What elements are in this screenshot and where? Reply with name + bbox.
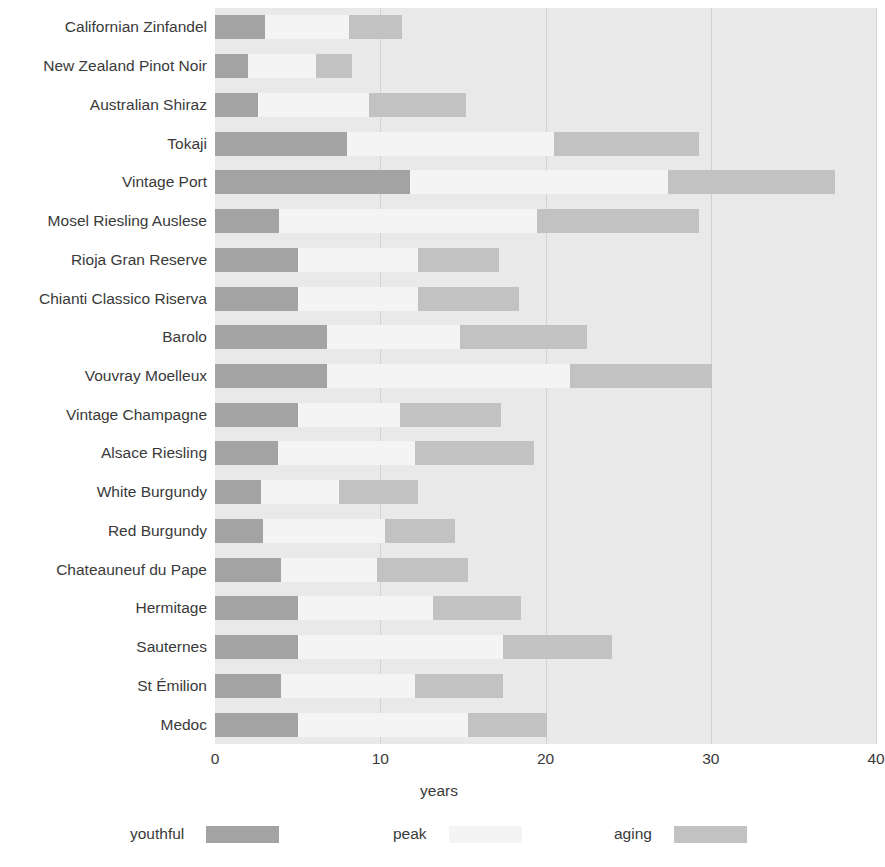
bar-segment-aging: [460, 325, 587, 349]
bar-segment-peak: [298, 596, 434, 620]
bar-segment-youthful: [215, 674, 281, 698]
x-axis-tick-label: 20: [537, 750, 554, 768]
bar-segment-aging: [349, 15, 402, 39]
bar-segment-aging: [369, 93, 466, 117]
bar-segment-youthful: [215, 170, 410, 194]
bar-segment-youthful: [215, 558, 281, 582]
bar-segment-youthful: [215, 635, 298, 659]
bar-segment-youthful: [215, 209, 279, 233]
bar-segment-youthful: [215, 596, 298, 620]
bar-segment-peak: [298, 403, 400, 427]
bar-segment-peak: [281, 674, 415, 698]
bar-row: [215, 674, 876, 698]
legend-item-youthful[interactable]: youthful: [130, 822, 279, 846]
y-axis-label: Vintage Port: [122, 174, 207, 190]
bar-row: [215, 325, 876, 349]
bar-segment-aging: [433, 596, 521, 620]
bar-segment-youthful: [215, 713, 298, 737]
y-axis-label: Australian Shiraz: [90, 97, 207, 113]
legend-swatch-aging: [674, 826, 747, 843]
x-axis-tick-label: 10: [372, 750, 389, 768]
bar-row: [215, 403, 876, 427]
y-axis-label: Medoc: [160, 717, 207, 733]
bar-row: [215, 558, 876, 582]
bar-segment-aging: [503, 635, 612, 659]
bar-segment-youthful: [215, 93, 258, 117]
plot-area: [215, 8, 876, 744]
legend-item-aging[interactable]: aging: [614, 822, 747, 846]
bar-segment-peak: [410, 170, 668, 194]
bar-segment-peak: [248, 54, 316, 78]
bar-segment-youthful: [215, 519, 263, 543]
bar-segment-peak: [327, 364, 570, 388]
bar-row: [215, 713, 876, 737]
legend-label: youthful: [130, 825, 184, 843]
bar-segment-youthful: [215, 325, 327, 349]
y-axis-label: Tokaji: [167, 136, 207, 152]
bar-row: [215, 364, 876, 388]
bar-segment-peak: [278, 441, 415, 465]
bar-segment-peak: [265, 15, 349, 39]
bar-segment-peak: [279, 209, 537, 233]
bar-segment-youthful: [215, 441, 278, 465]
bar-segment-aging: [385, 519, 454, 543]
legend-label: peak: [393, 825, 427, 843]
bar-row: [215, 209, 876, 233]
y-axis-label: St Émilion: [137, 678, 207, 694]
bar-segment-youthful: [215, 480, 261, 504]
bar-row: [215, 15, 876, 39]
bar-segment-aging: [668, 170, 835, 194]
bar-segment-aging: [537, 209, 699, 233]
bar-segment-peak: [281, 558, 377, 582]
legend-swatch-peak: [449, 826, 522, 843]
bar-row: [215, 635, 876, 659]
bar-segment-youthful: [215, 287, 298, 311]
bar-segment-peak: [298, 248, 419, 272]
bar-segment-peak: [261, 480, 339, 504]
bar-segment-peak: [298, 287, 419, 311]
y-axis-label: Vintage Champagne: [66, 407, 207, 423]
y-axis-label: Alsace Riesling: [101, 445, 207, 461]
y-axis-label: Chianti Classico Riserva: [39, 291, 207, 307]
bar-segment-youthful: [215, 15, 265, 39]
y-axis-label: White Burgundy: [97, 484, 207, 500]
x-axis-tick-label: 30: [702, 750, 719, 768]
bar-segment-peak: [263, 519, 385, 543]
bar-segment-peak: [298, 713, 468, 737]
bar-row: [215, 54, 876, 78]
bar-segment-aging: [554, 132, 699, 156]
bar-segment-peak: [298, 635, 503, 659]
y-axis-label: Chateauneuf du Pape: [56, 562, 207, 578]
y-axis-label: Sauternes: [136, 639, 207, 655]
y-axis-label: Red Burgundy: [108, 523, 207, 539]
bar-row: [215, 248, 876, 272]
legend-swatch-youthful: [206, 826, 279, 843]
bar-segment-aging: [415, 441, 534, 465]
y-axis-label: Barolo: [162, 329, 207, 345]
gridline-40: [876, 8, 877, 744]
bar-segment-aging: [415, 674, 503, 698]
legend-item-peak[interactable]: peak: [393, 822, 522, 846]
y-axis-label: Mosel Riesling Auslese: [48, 213, 207, 229]
bar-row: [215, 170, 876, 194]
x-axis-tick-label: 0: [211, 750, 220, 768]
bar-segment-youthful: [215, 248, 298, 272]
x-axis-title: years: [0, 782, 878, 800]
bar-row: [215, 519, 876, 543]
bar-segment-aging: [570, 364, 712, 388]
y-axis-category-labels: Californian ZinfandelNew Zealand Pinot N…: [0, 8, 207, 744]
y-axis-label: Vouvray Moelleux: [85, 368, 207, 384]
bar-segment-aging: [377, 558, 468, 582]
bar-segment-aging: [468, 713, 547, 737]
bar-row: [215, 596, 876, 620]
chart-legend: youthfulpeakaging: [0, 822, 878, 850]
bar-segment-peak: [258, 93, 369, 117]
bar-segment-aging: [339, 480, 418, 504]
x-axis: 010203040: [215, 744, 876, 774]
bar-row: [215, 441, 876, 465]
bar-segment-youthful: [215, 132, 347, 156]
x-axis-tick-label: 40: [867, 750, 884, 768]
y-axis-label: New Zealand Pinot Noir: [43, 58, 207, 74]
bar-segment-aging: [316, 54, 352, 78]
